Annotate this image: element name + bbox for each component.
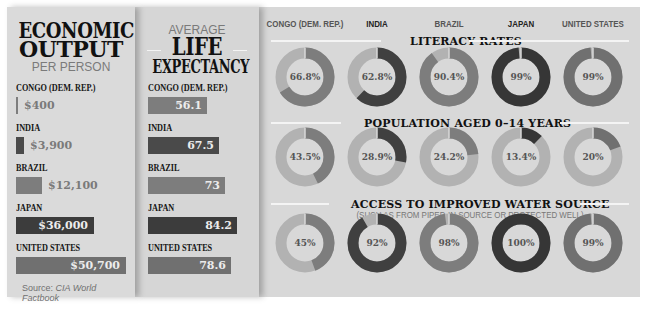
donut-value-label: 20% — [582, 152, 604, 162]
gdp-value-label: $400 — [24, 99, 55, 112]
life-expectancy-title-line2: EXPECTANCY — [152, 57, 241, 77]
donut-value-label: 98% — [438, 238, 460, 248]
section-title-rule — [271, 122, 341, 124]
gdp-value-label: $36,000 — [38, 219, 88, 232]
economic-output-panel: ECONOMIC OUTPUT PER PERSON CONGO (DEM. R… — [7, 7, 135, 297]
donut-value-label: 99% — [582, 72, 604, 82]
country-label: CONGO (DEM. REP.) — [16, 82, 95, 93]
donut-value-label: 13.4% — [506, 152, 537, 162]
country-column-header: BRAZIL — [409, 19, 488, 29]
economic-output-title-line2: OUTPUT — [7, 39, 135, 59]
source-prefix: Source: — [22, 283, 56, 293]
country-label: BRAZIL — [16, 162, 47, 173]
life-expectancy-value-label: 56.1 — [175, 99, 202, 112]
donut-value-label: 99% — [582, 238, 604, 248]
section-title-rule — [469, 40, 629, 42]
section-title-rule — [271, 203, 329, 205]
donut-value-label: 92% — [366, 238, 388, 248]
country-label: UNITED STATES — [16, 242, 80, 253]
gdp-value-label: $12,100 — [48, 179, 98, 192]
country-column-header: JAPAN — [481, 19, 560, 29]
donut-ring: 99% — [562, 212, 624, 274]
indicator-rings-panel: CONGO (DEM. REP.)INDIABRAZILJAPANUNITED … — [259, 7, 640, 297]
donut-value-label: 43.5% — [290, 152, 321, 162]
life-expectancy-value-label: 67.5 — [187, 139, 214, 152]
life-expectancy-title-line1: LIFE — [146, 36, 248, 58]
country-label: INDIA — [148, 122, 172, 133]
country-label: UNITED STATES — [148, 242, 212, 253]
donut-ring: 92% — [346, 212, 408, 274]
section-title-rule — [580, 203, 629, 205]
donut-value-label: 90.4% — [434, 72, 465, 82]
donut-ring: 24.2% — [418, 126, 480, 188]
life-expectancy-value-label: 84.2 — [205, 219, 232, 232]
country-column-header: UNITED STATES — [553, 19, 632, 29]
life-expectancy-value-label: 73 — [205, 179, 220, 192]
source-note: Source: CIA World Factbook — [22, 283, 135, 303]
country-label: JAPAN — [148, 202, 174, 213]
donut-ring: 98% — [418, 212, 480, 274]
country-column-header: INDIA — [337, 19, 416, 29]
section-title-rule — [271, 40, 381, 42]
country-column-header: CONGO (DEM. REP.) — [265, 19, 344, 29]
donut-ring: 13.4% — [490, 126, 552, 188]
gdp-bar — [16, 97, 18, 114]
infographic-board: ECONOMIC OUTPUT PER PERSON CONGO (DEM. R… — [7, 7, 640, 297]
donut-ring: 20% — [562, 126, 624, 188]
gdp-value-label: $3,900 — [30, 139, 72, 152]
life-expectancy-panel: AVERAGE LIFE EXPECTANCY CONGO (DEM. REP.… — [135, 7, 259, 297]
donut-value-label: 24.2% — [434, 152, 465, 162]
donut-ring: 66.8% — [274, 46, 336, 108]
section-title-rule — [560, 122, 629, 124]
country-label: INDIA — [16, 122, 40, 133]
donut-ring: 43.5% — [274, 126, 336, 188]
donut-ring: 62.8% — [346, 46, 408, 108]
country-label: CONGO (DEM. REP.) — [148, 82, 227, 93]
donut-value-label: 28.9% — [362, 152, 393, 162]
life-expectancy-value-label: 78.6 — [199, 259, 226, 272]
donut-ring: 90.4% — [418, 46, 480, 108]
donut-value-label: 100% — [507, 238, 535, 248]
donut-value-label: 99% — [510, 72, 532, 82]
gdp-bar — [16, 177, 42, 194]
donut-ring: 28.9% — [346, 126, 408, 188]
gdp-bar — [16, 137, 24, 154]
gdp-value-label: $50,700 — [70, 259, 120, 272]
country-label: BRAZIL — [148, 162, 179, 173]
donut-value-label: 62.8% — [362, 72, 393, 82]
economic-output-subtitle: PER PERSON — [7, 60, 135, 74]
donut-value-label: 45% — [294, 238, 316, 248]
donut-ring: 45% — [274, 212, 336, 274]
donut-ring: 99% — [562, 46, 624, 108]
donut-ring: 100% — [490, 212, 552, 274]
donut-value-label: 66.8% — [290, 72, 321, 82]
country-label: JAPAN — [16, 202, 42, 213]
donut-ring: 99% — [490, 46, 552, 108]
